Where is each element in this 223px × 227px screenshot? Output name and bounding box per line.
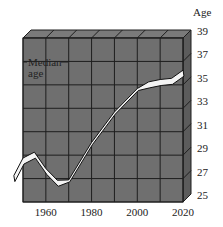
x-tick-label: 1960 bbox=[35, 206, 58, 218]
y-tick-label: 33 bbox=[197, 95, 209, 107]
x-tick-label: 2000 bbox=[126, 206, 149, 218]
y-tick-label: 25 bbox=[197, 189, 209, 201]
x-axis: 1960198020002020 bbox=[35, 206, 195, 218]
annotation-line-2: age bbox=[28, 67, 43, 79]
y-axis-label: Age bbox=[193, 6, 211, 18]
y-tick-label: 37 bbox=[197, 48, 209, 60]
y-tick-label: 27 bbox=[197, 166, 209, 178]
y-tick-label: 31 bbox=[197, 119, 208, 131]
y-axis: Age 2527293133353739 bbox=[193, 6, 211, 201]
x-tick-label: 2020 bbox=[172, 206, 195, 218]
y-tick-label: 35 bbox=[197, 72, 209, 84]
y-tick-label: 39 bbox=[197, 25, 209, 37]
x-tick-label: 1980 bbox=[81, 206, 104, 218]
median-age-chart: Age 2527293133353739 1960198020002020 Me… bbox=[0, 0, 223, 227]
y-tick-label: 29 bbox=[197, 142, 209, 154]
